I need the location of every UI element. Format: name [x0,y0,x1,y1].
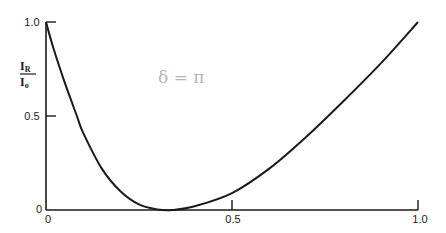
y-tick-label-1: 1.0 [24,16,39,28]
x-tick-label-0.5: 0.5 [225,213,240,225]
data-curve [46,22,418,210]
y-axis-label: IR Io [20,59,36,90]
delta-annotation: δ = π [158,67,204,87]
y-tick-label-0.5: 0.5 [24,110,39,122]
x-tick-label-0: 0 [45,213,51,225]
svg-text:Io: Io [20,75,29,90]
x-tick-label-1: 1.0 [412,213,427,225]
svg-text:IR: IR [20,59,31,74]
y-tick-label-0: 0 [36,203,42,215]
chart: 1.0 0.5 0 0 0.5 1.0 IR Io δ = π [0,0,446,233]
